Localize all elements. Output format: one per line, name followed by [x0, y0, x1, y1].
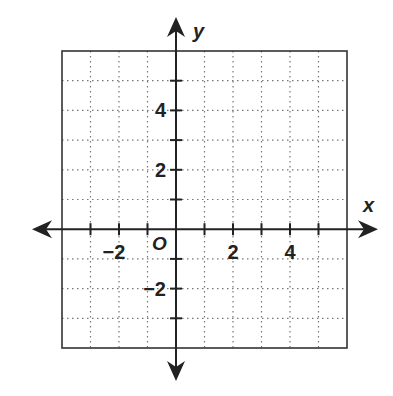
y-axis-label: y	[192, 20, 205, 42]
y-tick-label: 2	[155, 159, 166, 181]
origin-label: O	[152, 233, 167, 254]
x-tick-label: 2	[227, 241, 238, 263]
y-tick-label: 4	[155, 99, 167, 121]
coordinate-plane: −22442−2 x y O	[0, 0, 393, 396]
x-axis-label: x	[362, 194, 375, 216]
x-tick-label: 4	[284, 241, 296, 263]
grid-border	[62, 51, 347, 348]
y-tick-label: −2	[143, 278, 166, 300]
grid-lines	[62, 51, 347, 348]
x-tick-label: −2	[103, 241, 126, 263]
